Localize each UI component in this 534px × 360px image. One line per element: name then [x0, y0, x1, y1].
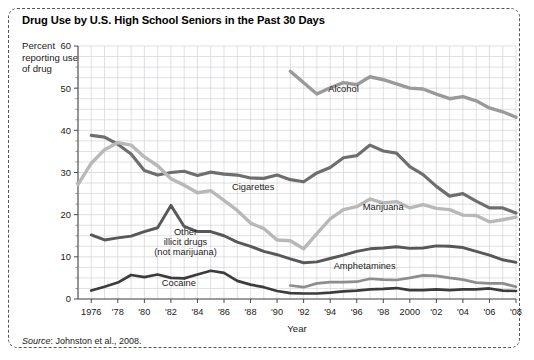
y-tick-label: 50	[61, 83, 71, 94]
x-tick-label: '08	[510, 307, 522, 317]
x-tick-label: '04	[457, 307, 469, 317]
y-tick-label: 10	[61, 251, 71, 262]
y-tick-label: 60	[61, 40, 71, 51]
x-tick-label: '88	[245, 307, 257, 317]
x-axis-title: Year	[287, 323, 307, 334]
series-label-line: (not marijuana)	[154, 247, 217, 257]
series-label-marijuana: Marijuana	[363, 202, 405, 212]
x-tick-label: '02	[430, 307, 442, 317]
x-tick-label: '78	[112, 307, 124, 317]
series-line-amphetamines	[290, 275, 516, 287]
x-tick-label: '80	[138, 307, 150, 317]
series-label-alcohol: Alcohol	[328, 84, 359, 94]
chart-svg: 01020304050601976'78'80'82'84'86'88'90'9…	[0, 0, 534, 360]
x-tick-label: '86	[218, 307, 230, 317]
x-tick-label: '06	[483, 307, 495, 317]
x-tick-label: 1976	[81, 307, 101, 317]
series-label-cocaine: Cocaine	[162, 278, 196, 288]
series-label-cigarettes: Cigarettes	[232, 182, 275, 192]
y-tick-label: 40	[61, 125, 71, 136]
series-line-alcohol	[290, 71, 516, 117]
series-label-amphetamines: Amphetamines	[334, 261, 396, 271]
x-tick-label: '90	[271, 307, 283, 317]
x-tick-label: '94	[324, 307, 336, 317]
x-tick-label: '84	[191, 307, 203, 317]
y-tick-label: 20	[61, 209, 71, 220]
x-tick-label: '96	[351, 307, 363, 317]
x-tick-label: '98	[377, 307, 389, 317]
x-tick-label: '82	[165, 307, 177, 317]
chart-plot-area: 01020304050601976'78'80'82'84'86'88'90'9…	[0, 0, 534, 360]
y-tick-label: 0	[66, 293, 71, 304]
series-label-line: illicit drugs	[164, 237, 208, 247]
x-tick-label: 2000	[400, 307, 420, 317]
data-series-group	[78, 71, 516, 293]
x-tick-label: '92	[298, 307, 310, 317]
series-label-line: Other	[174, 227, 197, 237]
x-axis-ticks: 1976'78'80'82'84'86'88'90'92'94'96'98200…	[81, 299, 522, 317]
y-axis-ticks: 0102030405060	[61, 40, 78, 304]
y-tick-label: 30	[61, 167, 71, 178]
